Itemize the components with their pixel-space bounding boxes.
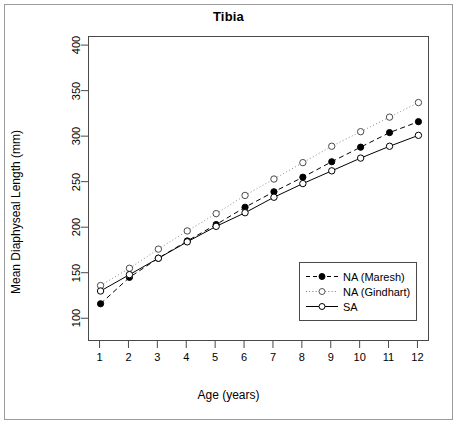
legend-key-sa (305, 300, 339, 313)
legend-key-na-maresh (305, 270, 339, 283)
y-tick-label: 100 (70, 309, 82, 327)
y-tick-label: 200 (70, 218, 82, 236)
y-tick-label: 150 (70, 264, 82, 282)
x-tick-label: 8 (299, 351, 305, 363)
y-tick-label: 300 (70, 127, 82, 145)
x-tick-label: 10 (354, 351, 366, 363)
legend: NA (Maresh) NA (Gindhart) SA (299, 262, 417, 321)
legend-item: NA (Gindhart) (305, 284, 410, 299)
x-tick-label: 9 (328, 351, 334, 363)
x-tick-label: 1 (96, 351, 102, 363)
y-tick-label: 350 (70, 81, 82, 99)
legend-item: SA (305, 299, 410, 314)
x-tick-label: 2 (125, 351, 131, 363)
legend-key-na-gindhart (305, 285, 339, 298)
y-tick-label: 250 (70, 172, 82, 190)
figure-canvas: Tibia Mean Diaphyseal Length (mm) Age (y… (0, 0, 457, 424)
legend-item: NA (Maresh) (305, 269, 410, 284)
x-tick-label: 12 (411, 351, 423, 363)
legend-label-na-gindhart: NA (Gindhart) (343, 286, 410, 298)
x-tick-label: 4 (183, 351, 189, 363)
x-tick-label: 11 (383, 351, 394, 363)
legend-label-sa: SA (343, 301, 358, 313)
x-tick-label: 5 (212, 351, 218, 363)
x-tick-label: 6 (241, 351, 247, 363)
x-tick-label: 7 (270, 351, 276, 363)
y-tick-label: 400 (70, 36, 82, 54)
x-tick-label: 3 (154, 351, 160, 363)
legend-label-na-maresh: NA (Maresh) (343, 271, 405, 283)
